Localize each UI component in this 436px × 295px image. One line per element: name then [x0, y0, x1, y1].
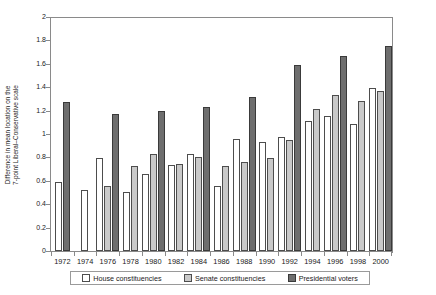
- bar-senate-1980: [150, 154, 157, 251]
- bar-senate-1996: [332, 95, 339, 251]
- bar-house-1986: [214, 186, 221, 251]
- bar-house-1990: [259, 142, 266, 252]
- bar-senate-1990: [267, 158, 274, 251]
- x-axis-label-1972: 1972: [51, 257, 74, 269]
- bar-senate-1992: [286, 140, 293, 251]
- x-axis-label-1976: 1976: [96, 257, 119, 269]
- y-axis-tick-label: 1: [6, 130, 46, 137]
- y-axis-tick: [46, 204, 50, 205]
- x-axis-label-1992: 1992: [278, 257, 301, 269]
- bar-groups: [51, 17, 392, 251]
- y-axis-tick: [46, 181, 50, 182]
- bar-house-1984: [187, 154, 194, 251]
- legend-label: Presidential voters: [299, 274, 358, 283]
- bar-house-1972: [55, 182, 62, 251]
- chart-legend: House constituenciesSenate constituencie…: [70, 271, 370, 285]
- bar-group: [347, 17, 370, 251]
- legend-swatch-house-icon: [82, 274, 90, 282]
- y-axis-tick-label: 0.2: [6, 224, 46, 231]
- bar-house-1998: [350, 124, 357, 251]
- legend-item-senate[interactable]: Senate constituencies: [184, 274, 265, 283]
- bar-house-1980: [142, 174, 149, 251]
- bar-house-1996: [324, 116, 331, 251]
- x-axis-label-1980: 1980: [142, 257, 165, 269]
- y-axis-tick: [46, 17, 50, 18]
- y-axis-tick-label: 1.4: [6, 83, 46, 90]
- bar-group: [74, 17, 97, 251]
- y-axis-tick-label: 0: [6, 247, 46, 254]
- bar-senate-1982: [176, 164, 183, 251]
- bar-senate-1984: [195, 157, 202, 251]
- y-axis-tick-label: 1.6: [6, 60, 46, 67]
- bar-house-1992: [278, 137, 285, 251]
- bar-house-1994: [305, 121, 312, 251]
- bar-senate-1994: [313, 109, 320, 251]
- bar-senate-2000: [377, 91, 384, 251]
- bar-group: [324, 17, 347, 251]
- x-axis-label-1974: 1974: [74, 257, 97, 269]
- bar-house-1974: [81, 190, 88, 251]
- bar-senate-1976: [104, 186, 111, 251]
- bar-group: [165, 17, 188, 251]
- bar-pres-1988: [249, 97, 256, 251]
- y-axis-tick: [46, 111, 50, 112]
- y-axis-tick: [46, 40, 50, 41]
- bar-group: [187, 17, 210, 251]
- y-axis-tick: [46, 87, 50, 88]
- y-axis-tick-label: 0.8: [6, 153, 46, 160]
- legend-label: House constituencies: [93, 274, 161, 283]
- legend-item-house[interactable]: House constituencies: [82, 274, 161, 283]
- x-axis-label-1982: 1982: [165, 257, 188, 269]
- bar-senate-1986: [222, 166, 229, 251]
- y-axis-tick-label: 1.2: [6, 107, 46, 114]
- x-axis-label-1996: 1996: [324, 257, 347, 269]
- bar-group: [278, 17, 301, 251]
- x-axis-label-1990: 1990: [256, 257, 279, 269]
- bar-pres-1996: [340, 56, 347, 251]
- y-axis-tick-label: 2: [6, 13, 46, 20]
- bar-house-1988: [233, 139, 240, 251]
- bar-senate-1998: [358, 101, 365, 251]
- bar-group: [142, 17, 165, 251]
- y-axis-tick: [46, 251, 50, 252]
- bar-house-1982: [168, 165, 175, 251]
- x-axis-label-1998: 1998: [347, 257, 370, 269]
- bar-group: [119, 17, 142, 251]
- bar-group: [210, 17, 233, 251]
- x-axis-label-1986: 1986: [210, 257, 233, 269]
- bar-senate-1978: [131, 166, 138, 251]
- y-axis-tick-label: 0.4: [6, 200, 46, 207]
- legend-item-pres[interactable]: Presidential voters: [288, 274, 358, 283]
- bar-group: [369, 17, 392, 251]
- bar-group: [96, 17, 119, 251]
- y-axis-tick: [46, 134, 50, 135]
- bar-group: [233, 17, 256, 251]
- bar-house-1976: [96, 158, 103, 251]
- legend-swatch-pres-icon: [288, 274, 296, 282]
- y-axis-tick: [46, 228, 50, 229]
- plot-right-border: [392, 17, 393, 253]
- bar-pres-1980: [158, 111, 165, 251]
- bar-pres-1976: [112, 114, 119, 251]
- bar-house-2000: [369, 88, 376, 251]
- bar-pres-2000: [385, 46, 392, 251]
- y-axis-tick-label: 0.6: [6, 177, 46, 184]
- bar-chart: Difference in mean location on the 7-poi…: [0, 0, 436, 295]
- x-axis-label-1994: 1994: [301, 257, 324, 269]
- legend-swatch-senate-icon: [184, 274, 192, 282]
- x-axis-label-1984: 1984: [187, 257, 210, 269]
- bar-group: [301, 17, 324, 251]
- bar-group: [256, 17, 279, 251]
- bar-house-1978: [123, 192, 130, 251]
- y-axis-tick: [46, 157, 50, 158]
- x-axis-label-1978: 1978: [119, 257, 142, 269]
- bar-group: [51, 17, 74, 251]
- legend-label: Senate constituencies: [195, 274, 265, 283]
- bar-pres-1972: [63, 102, 70, 251]
- bar-senate-1988: [241, 162, 248, 251]
- y-axis-tick-label: 1.8: [6, 36, 46, 43]
- x-axis-label-1988: 1988: [233, 257, 256, 269]
- x-axis-label-2000: 2000: [369, 257, 392, 269]
- x-axis-labels: 1972197419761978198019821984198619881990…: [51, 257, 392, 269]
- bar-pres-1992: [294, 65, 301, 251]
